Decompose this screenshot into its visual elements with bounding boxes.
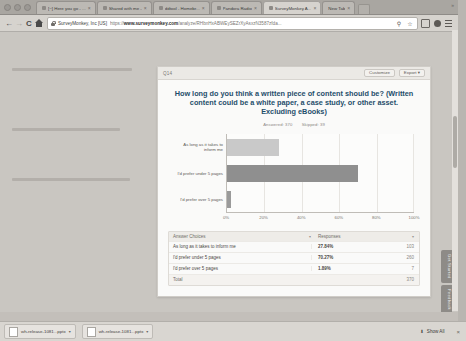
cell-count: 7 [380, 266, 419, 271]
page-scrollbar[interactable] [452, 30, 458, 311]
table-row: As long as it takes to inform me 27.84% … [169, 242, 419, 253]
downloads-bar: wh-release-1081...pptx ▾ wh-release-1081… [0, 321, 466, 341]
download-icon: ⬇ [420, 329, 424, 334]
chart-row-1: I'd prefer under 5 pages [227, 165, 414, 182]
cell-answer-choice: I'd prefer under 5 pages [169, 255, 311, 260]
question-title: How long do you think a written piece of… [172, 89, 416, 117]
response-meta: Answered: 370 Skipped: 39 [166, 122, 422, 127]
window-overflow-icon[interactable]: » [451, 2, 455, 8]
x-tick-label: 60% [334, 215, 343, 220]
close-icon[interactable]: × [144, 6, 147, 11]
chevron-down-icon[interactable]: ▾ [146, 329, 148, 334]
page-background-artifact [12, 128, 120, 131]
chart-bar[interactable] [227, 139, 279, 156]
browser-tab-1[interactable]: Shared with me - × [97, 1, 152, 14]
page-background-artifact [12, 178, 130, 181]
download-item[interactable]: wh-release-1081...pptx ▾ [82, 324, 154, 339]
feedback-tab[interactable]: Feedback [441, 285, 452, 312]
file-icon [9, 327, 18, 337]
total-label: Total [169, 277, 311, 282]
tab-favicon [159, 6, 163, 10]
close-icon[interactable]: × [347, 6, 350, 11]
show-all-label: Show All [427, 329, 445, 334]
cell-percent: 27.84% [311, 244, 380, 249]
download-item[interactable]: wh-release-1081...pptx ▾ [4, 324, 76, 339]
url-domain: www.surveymonkey.com [124, 21, 178, 26]
close-icon[interactable]: × [202, 6, 205, 11]
browser-tab-2[interactable]: ddtool - Homebr... × [153, 1, 210, 14]
address-bar[interactable]: SurveyMonkey, Inc [US] https://www.surve… [47, 17, 418, 30]
export-button[interactable]: Export ▾ [399, 69, 425, 77]
back-button[interactable]: ← [4, 18, 14, 29]
close-icon[interactable]: × [88, 6, 91, 11]
show-all-downloads-button[interactable]: ⬇ Show All [420, 329, 444, 334]
sort-icon: ▾ [412, 234, 414, 239]
reload-button[interactable]: C [24, 18, 34, 29]
tab-strip: [~] Here you go - ... × Shared with me -… [0, 0, 458, 15]
chart-category-label: As long as it takes to inform me [177, 142, 223, 152]
column-header-answer-choices[interactable]: Answer Choices [169, 234, 307, 239]
tab-title: ddtool - Homebr... [165, 6, 200, 11]
responses-table: Answer Choices ▾ Responses ▾ As long as … [168, 231, 420, 286]
chart-bar[interactable] [227, 191, 231, 208]
star-icon[interactable]: ☆ [406, 19, 414, 27]
apps-icon[interactable] [421, 19, 430, 28]
card-body: How long do you think a written piece of… [158, 80, 430, 296]
new-tab-button[interactable] [358, 4, 370, 14]
forward-button[interactable]: → [14, 18, 24, 29]
x-tick-label: 20% [259, 215, 268, 220]
survey-question-card: Q14 Customize Export ▾ How long do you t… [157, 66, 431, 297]
tab-favicon [103, 6, 107, 10]
home-button[interactable] [34, 18, 44, 29]
customize-button[interactable]: Customize [364, 69, 395, 77]
column-header-count[interactable]: ▾ [380, 234, 419, 239]
tab-favicon [269, 6, 273, 10]
browser-tab-3[interactable]: Pandora Radio × [211, 1, 262, 14]
close-window-button[interactable] [4, 4, 11, 11]
browser-tab-4[interactable]: SurveyMonkey A... × [263, 1, 322, 14]
lock-icon [51, 21, 55, 26]
cell-percent: 70.27% [311, 255, 380, 260]
maximize-window-button[interactable] [24, 4, 31, 11]
cell-count: 103 [380, 244, 419, 249]
total-count: 370 [380, 277, 419, 282]
minimize-window-button[interactable] [14, 4, 21, 11]
chart-category-label: I'd prefer over 5 pages [177, 197, 223, 202]
tab-favicon [217, 6, 221, 10]
window-traffic-lights[interactable] [4, 4, 31, 11]
close-icon[interactable]: × [254, 6, 257, 11]
close-icon[interactable]: × [313, 6, 316, 11]
browser-tab-0[interactable]: [~] Here you go - ... × [36, 1, 96, 14]
tab-title: New Tab [328, 6, 345, 11]
chart-row-2: I'd prefer over 5 pages [227, 191, 414, 208]
table-total-row: Total 370 [169, 275, 419, 285]
download-filename: wh-release-1081...pptx [21, 329, 66, 334]
chevron-down-icon[interactable]: ▾ [69, 329, 71, 334]
download-filename: wh-release-1081...pptx [99, 329, 144, 334]
url-path: /analyze/RHbnHxABWEySEZrXyAsxzN3587zfda.… [178, 21, 281, 26]
x-tick-label: 100% [409, 215, 420, 220]
chevron-down-icon: ▾ [418, 70, 420, 75]
tab-favicon [42, 6, 46, 10]
cell-answer-choice: As long as it takes to inform me [169, 244, 311, 249]
browser-window: [~] Here you go - ... × Shared with me -… [0, 0, 458, 311]
x-tick-label: 0% [223, 215, 229, 220]
profile-icon[interactable] [434, 20, 441, 27]
get-started-tab[interactable]: Get Started [441, 250, 452, 283]
search-icon[interactable]: ⚲ [395, 19, 403, 27]
bar-chart: As long as it takes to inform me I'd pre… [168, 132, 420, 227]
card-header-actions: Customize Export ▾ [364, 69, 425, 77]
tab-list: [~] Here you go - ... × Shared with me -… [36, 1, 370, 14]
skipped-count: Skipped: 39 [302, 122, 325, 127]
column-header-responses[interactable]: Responses [311, 234, 380, 239]
home-icon [35, 19, 43, 27]
site-identity-label: SurveyMonkey, Inc [US] [58, 21, 107, 26]
close-downloads-bar-button[interactable]: × [456, 329, 462, 335]
browser-tab-5[interactable]: New Tab × [322, 1, 355, 14]
chart-bar[interactable] [227, 165, 358, 182]
cell-answer-choice: I'd prefer over 5 pages [169, 266, 311, 271]
scrollbar-thumb[interactable] [453, 116, 457, 168]
menu-icon[interactable] [445, 20, 452, 27]
chart-x-axis: 0% 20% 40% 60% 80% 100% [226, 215, 414, 225]
